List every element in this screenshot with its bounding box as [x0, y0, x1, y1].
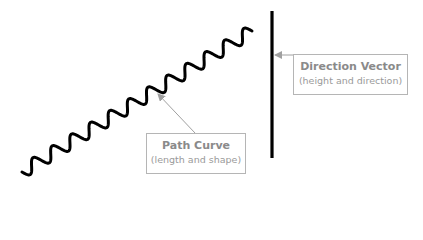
path-curve-arrow — [158, 94, 195, 133]
direction-vector-label-box: Direction Vector (height and direction) — [293, 54, 408, 95]
path-curve-subtitle: (length and shape) — [147, 153, 245, 166]
path-curve-label-box: Path Curve (length and shape) — [146, 133, 246, 174]
direction-vector-subtitle: (height and direction) — [294, 74, 407, 87]
direction-vector-title: Direction Vector — [294, 60, 407, 74]
path-curve-title: Path Curve — [147, 139, 245, 153]
